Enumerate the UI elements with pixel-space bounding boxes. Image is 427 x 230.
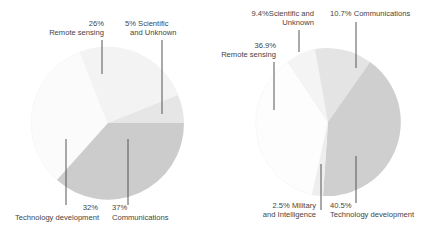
label-right-sci-line2: Unknown — [282, 18, 314, 27]
label-left-sci-line1: 5% Scientific — [125, 19, 169, 28]
label-right-remote-name: Remote sensing — [221, 50, 276, 59]
label-left-tech-pct: 32% — [83, 203, 98, 212]
label-left-comm-name: Communications — [112, 213, 169, 222]
label-right-tech-pct: 40.5% — [330, 201, 352, 210]
label-left-remote-pct: 26% — [89, 19, 104, 28]
label-left-tech-name: Technology development — [15, 213, 100, 222]
right-pie — [256, 48, 401, 196]
label-right-mil-line2: and Intelligence — [263, 210, 316, 219]
label-left-sci-line2: and Unknown — [130, 28, 176, 37]
label-right-comm: 10.7% Communications — [330, 9, 410, 18]
label-left-comm-pct: 37% — [112, 203, 127, 212]
label-right-remote-pct: 36.9% — [254, 41, 276, 50]
left-pie — [31, 47, 184, 200]
label-left-remote-name: Remote sensing — [49, 28, 104, 37]
label-right-mil-line1: 2.5% Military — [273, 201, 317, 210]
label-right-tech-name: Technology development — [330, 210, 415, 219]
label-right-sci-line1: 9.4%Scientific and — [252, 9, 314, 18]
pie-charts: 26% Remote sensing 5% Scientific and Unk… — [0, 0, 427, 230]
